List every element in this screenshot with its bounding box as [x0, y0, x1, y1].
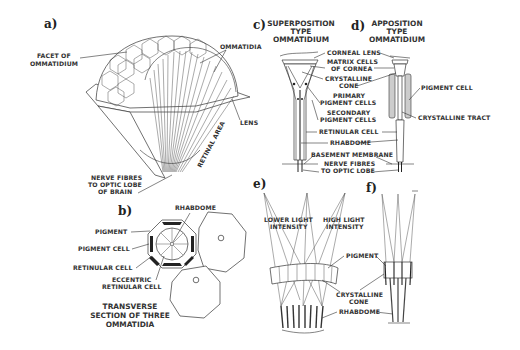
nucleus-3 [297, 98, 299, 100]
leader-nerve [138, 175, 172, 193]
label-retinular-cell: RETINULAR CELL [319, 128, 378, 135]
label-cone-2: CONE [339, 82, 359, 89]
label-nerve-3: OF BRAIN [98, 188, 132, 195]
label-eccentric-2: RETINULAR CELL [102, 283, 161, 290]
panel-f-letter: f) [366, 181, 377, 195]
panel-d: d) APPOSITION TYPE OMMATIDIUM PIGMENT CE… [351, 19, 491, 172]
label-lower-2: INTENSITY [270, 223, 308, 230]
label-pigment-b: PIGMENT [95, 228, 128, 235]
label-nerve-cd-2: TO OPTIC LOBE [321, 167, 375, 174]
label-nerve-cd-1: NERVE FIBRES [324, 160, 375, 167]
label-eccentric-1: ECCENTRIC [112, 276, 152, 283]
panel-b-letter: b) [118, 204, 132, 218]
leader-pigment-cell [132, 244, 149, 249]
title-c-3: OMMATIDIUM [273, 35, 329, 44]
label-high-2: INTENSITY [326, 223, 364, 230]
caption-b-2: SECTION OF THREE [90, 311, 170, 320]
ef-shared-labels: PIGMENT CRYSTALLINE CONE RHABDOME [322, 252, 393, 318]
corneal-lens-c [282, 60, 318, 64]
nucleus-2 [305, 83, 308, 86]
label-cone-ef-2: CONE [349, 298, 369, 305]
label-pigment-cell-d: PIGMENT CELL [421, 84, 473, 91]
eye-dome [96, 36, 238, 108]
crystalline-tract-d [398, 76, 402, 120]
leader-lens [232, 99, 240, 120]
panel-a: a) [30, 17, 262, 195]
retinular-column-d [396, 120, 404, 162]
neighbour-core-1 [218, 235, 224, 241]
rhabdome-core [170, 242, 173, 245]
ommatidium-section-lower [170, 266, 220, 318]
label-facet-2: OMMATIDIUM [30, 60, 78, 67]
label-nerve-2: TO OPTIC LOBE [88, 181, 142, 188]
leader-pigment [131, 231, 150, 232]
panel-e-letter: e) [253, 177, 266, 191]
label-pigment-cell-b: PIGMENT CELL [78, 245, 130, 252]
label-cone-1: CRYSTALLINE [325, 75, 372, 82]
rhabdomes-f [390, 278, 406, 322]
neighbour-core-2 [193, 277, 199, 283]
label-facet-1: FACET OF [37, 52, 71, 59]
caption-b-1: TRANSVERSE [103, 302, 158, 311]
ommatidium-section-right [198, 212, 246, 272]
label-rhabdome-ef: RHABDOME [339, 308, 380, 315]
label-high-1: HIGH LIGHT [323, 216, 365, 223]
label-rhabdome-b: RHABDOME [175, 204, 216, 211]
panel-b: b) RHABDOME PIGMENT [73, 204, 246, 329]
pigment-cell-left [389, 74, 395, 118]
light-rays-e [264, 193, 345, 306]
label-matrix-1: MATRIX CELLS [327, 58, 378, 65]
label-secondary-2: PIGMENT CELLS [320, 116, 376, 123]
label-lower-1: LOWER LIGHT [264, 216, 313, 223]
nucleus-1 [293, 83, 296, 86]
label-matrix-2: OF CORNEA [331, 65, 372, 72]
label-primary-2: PIGMENT CELLS [320, 99, 376, 106]
title-d-3: OMMATIDIUM [369, 35, 425, 44]
label-primary-1: PRIMARY [333, 92, 366, 99]
label-retinal-area: RETINAL AREA [196, 120, 226, 169]
label-basement: BASEMENT MEMBRANE [311, 151, 393, 158]
rhabdome-base-e [282, 330, 324, 333]
label-crystalline-tract: CRYSTALLINE TRACT [418, 114, 491, 121]
panel-a-letter: a) [44, 17, 57, 31]
label-ommatidia: OMMATIDIA [220, 43, 262, 50]
label-corneal-lens: CORNEAL LENS [327, 49, 381, 56]
corneal-lens-d [392, 60, 408, 64]
label-cone-ef-1: CRYSTALLINE [336, 291, 383, 298]
pigment-cell-right [405, 74, 411, 118]
light-rays-f [382, 194, 415, 262]
compound-eye-diagram: a) [0, 0, 520, 350]
eye-side-wall [98, 106, 165, 178]
panel-c: c) SUPERPOSITION TYPE OMMATIDIUM [253, 18, 335, 172]
label-secondary-1: SECONDARY [327, 109, 371, 116]
label-retinular-cell-b: RETINULAR CELL [73, 264, 132, 271]
cd-shared-labels: CORNEAL LENS MATRIX CELLS OF CORNEA CRYS… [301, 49, 398, 174]
cone-band-f [384, 262, 412, 278]
panel-c-letter: c) [253, 18, 266, 32]
label-pigment-ef: PIGMENT [346, 252, 379, 259]
panel-d-letter: d) [351, 19, 365, 33]
rhabdomes-e [281, 305, 323, 328]
nucleus-4 [301, 98, 303, 100]
label-nerve-1: NERVE FIBRES [91, 174, 142, 181]
crystalline-cone-d [394, 64, 406, 76]
leader-retinular-cell [136, 256, 152, 268]
caption-b-3: OMMATIDIA [106, 320, 155, 329]
corneal-surface-c [280, 52, 318, 56]
label-lens: LENS [240, 119, 258, 126]
